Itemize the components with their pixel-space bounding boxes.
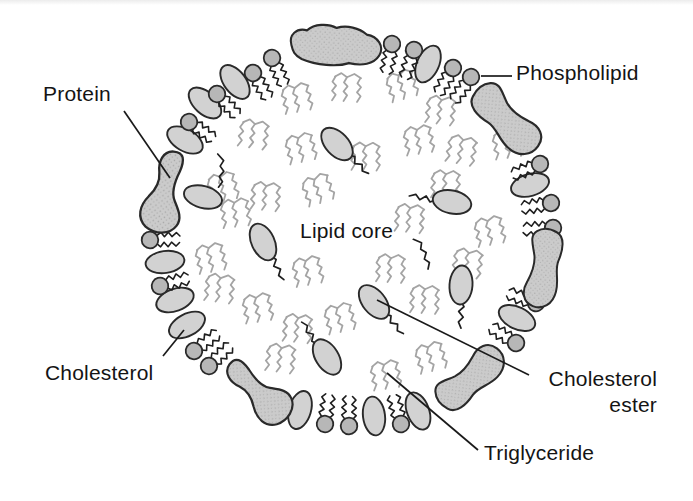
triglyceride-molecule [194, 242, 227, 274]
triglyceride-molecule [409, 284, 441, 315]
cholesterol-molecule [181, 181, 224, 212]
triglyceride-molecule [264, 342, 298, 375]
triglyceride-molecule [375, 253, 407, 284]
phospholipid-molecule [261, 47, 292, 89]
label-protein: Protein [43, 81, 111, 107]
triglyceride-molecule [280, 82, 313, 114]
triglyceride-molecule [281, 312, 314, 344]
cholesterol-ester-molecule [244, 219, 291, 285]
label-cholesterol-ester: Cholesterol ester [533, 366, 657, 418]
triglyceride-molecule [249, 180, 282, 212]
label-triglyceride: Triglyceride [484, 440, 594, 466]
fatty-acid-tail [413, 237, 431, 271]
protein-blob [522, 227, 564, 309]
triglyceride-molecule [414, 340, 449, 374]
triglyceride-molecule [291, 255, 324, 287]
triglyceride-molecule [370, 359, 402, 390]
protein-blob [289, 22, 383, 70]
phospholipid-molecule [341, 396, 358, 435]
triglyceride-molecule [473, 215, 506, 247]
label-cholesterol: Cholesterol [45, 360, 153, 386]
phospholipid-molecule [378, 34, 402, 75]
triglyceride-molecule [393, 202, 426, 234]
triglyceride-molecule [300, 172, 336, 208]
triglyceride-molecule [220, 198, 251, 228]
phospholipid-molecule [316, 393, 338, 433]
triglyceride-molecule [403, 124, 435, 155]
protein-blob [215, 352, 299, 432]
label-phospholipid: Phospholipid [516, 60, 639, 86]
triglyceride-molecule [284, 132, 318, 165]
triglyceride-molecule [424, 94, 458, 127]
cholesterol-ester-molecule [408, 182, 474, 217]
scan-edge-shade [0, 0, 693, 5]
triglyceride-molecule [331, 72, 363, 103]
protein-leader-line [124, 111, 170, 178]
triglyceride-molecule [323, 302, 357, 335]
triglyceride-molecule [203, 272, 237, 305]
triglyceride-molecule [444, 133, 480, 168]
triglyceride-molecule [236, 117, 271, 151]
label-cholesterol-ester-line2: ester [609, 393, 657, 416]
label-cholesterol-ester-line1: Cholesterol [549, 367, 657, 390]
cholesterol-ester-molecule [447, 265, 474, 329]
cholesterol-molecule [361, 395, 388, 436]
triglyceride-molecule [242, 292, 274, 323]
cholesterol-molecule [144, 248, 186, 275]
protein-blob [137, 148, 190, 236]
figure-canvas: Protein Phospholipid Lipid core Choleste… [0, 0, 693, 501]
label-lipid-core: Lipid core [300, 218, 393, 244]
